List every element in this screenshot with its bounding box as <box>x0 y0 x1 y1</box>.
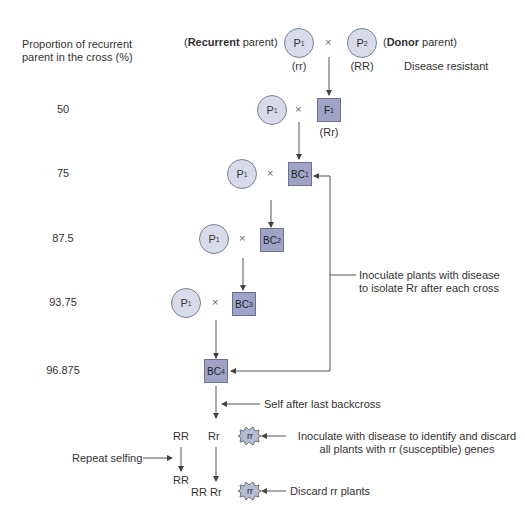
offspring-row2-rr: RR <box>173 474 189 487</box>
parent-p2-node: P2 <box>347 28 377 58</box>
p2-genotype: (RR) <box>345 60 379 73</box>
cross-symbol: × <box>239 232 245 244</box>
p1-node-f1-cross: P1 <box>257 95 287 125</box>
axis-title: Proportion of recurrent parent in the cr… <box>22 38 133 64</box>
bc1-node: BC1 <box>288 162 312 186</box>
p1-genotype: (rr) <box>284 60 314 73</box>
discard-annotation: Discard rr plants <box>290 485 370 498</box>
cross-symbol: × <box>212 296 218 308</box>
proportion-87-5: 87.5 <box>43 232 83 245</box>
bc3-node: BC3 <box>232 292 256 316</box>
inoculate-annotation: Inoculate plants with disease to isolate… <box>359 269 500 295</box>
offspring-rr-dominant: RR <box>173 430 189 443</box>
proportion-50: 50 <box>48 103 78 116</box>
self-annotation: Self after last backcross <box>264 398 381 411</box>
cross-symbol: × <box>295 103 301 115</box>
cross-symbol: × <box>267 167 273 179</box>
identify-annotation: Inoculate with disease to identify and d… <box>289 430 525 456</box>
offspring-rr-hetero: Rr <box>208 430 220 443</box>
bc4-node: BC4 <box>204 359 228 383</box>
p1-node-bc2-cross: P1 <box>199 224 229 254</box>
bc2-node: BC2 <box>260 228 284 252</box>
proportion-96-875: 96.875 <box>36 364 90 377</box>
disease-resistant-label: Disease resistant <box>404 60 488 73</box>
recurrent-parent-label: (Recurrent parent) <box>184 36 278 49</box>
parent-p1-node: P1 <box>284 28 314 58</box>
repeat-selfing-label: Repeat selfing <box>72 452 142 465</box>
f1-node: F1 <box>317 98 341 122</box>
f1-genotype: (Rr) <box>313 126 345 139</box>
proportion-75: 75 <box>48 167 78 180</box>
offspring-row2-mixed: RR Rr <box>191 486 222 499</box>
donor-parent-label: (Donor parent) <box>383 36 457 49</box>
proportion-93-75: 93.75 <box>40 296 86 309</box>
p1-node-bc1-cross: P1 <box>227 159 257 189</box>
p1-node-bc3-cross: P1 <box>171 288 201 318</box>
rr-burst-icon: rr <box>237 482 263 500</box>
cross-symbol: × <box>325 36 331 48</box>
rr-burst-icon: rr <box>237 427 263 445</box>
